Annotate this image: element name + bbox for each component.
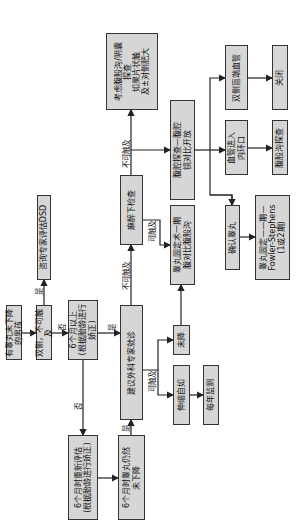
edge-label-palpable: 可触及 [146, 221, 157, 242]
node-label: 每年监测 [206, 379, 215, 411]
node-label: 6个月时重新评估 (根据胎龄进行矫正) [74, 442, 92, 512]
edge-label-palpable: 可触及 [146, 371, 157, 392]
node-retractile: 伸缩自如 [173, 365, 190, 425]
node-exam-under-anesthesia: 麻醉下检查 [120, 175, 143, 245]
node-label: 睾丸固定术一期 腹对比腹股沟 [173, 217, 191, 273]
node-label: 血管进入 内环口 [227, 132, 245, 164]
node-label: 建议外科专家就诊 [127, 331, 136, 395]
edge-label-nonpalpable: 不可触及 [120, 262, 131, 290]
node-label: 未降 [177, 332, 186, 348]
node-label: 双侧盲端血管 [232, 54, 241, 102]
node-inguinal-scrotal-exploration: 考虑腹股沟/阴囊 探查 如果片状触 及±对侧肥大 [106, 33, 158, 110]
node-bilateral-nonpalpable: 双侧，不可触及 [36, 305, 52, 360]
node-label: 伸缩自如 [177, 379, 186, 411]
node-label: 腹腔探查—腹腔 镜对比开放 [173, 122, 191, 178]
node-still-undescended: 6个月时睾丸仍然 未下降 [118, 435, 145, 520]
node-label: 双侧，不可触及 [35, 308, 53, 357]
node-annual-monitoring: 每年监测 [203, 365, 219, 425]
node-label: 麻醉下检查 [127, 190, 136, 230]
node-label: 腹股沟探查 [275, 128, 284, 168]
edge-label-yes: 是 [120, 425, 131, 432]
node-label: 6个月以上 (根据胎龄进行矫正) [69, 303, 97, 357]
node-blind-ending-vessels: 双侧盲端血管 [225, 45, 248, 110]
node-label: 睾丸固定——期— Fowler-Stephens (1或2期) [259, 205, 287, 271]
edge-label-nonpalpable: 不可触及 [120, 140, 131, 168]
node-start: 有睾丸未下降的男孩 [6, 305, 22, 360]
node-close: 关闭 [272, 45, 288, 110]
edge-label-no: 否 [72, 403, 83, 410]
node-confirm-testis: 确认睾丸 [225, 205, 240, 270]
node-orchidopexy-groin: 睾丸固定术一期 腹对比腹股沟 [170, 205, 195, 285]
node-label: 确认睾丸 [228, 222, 237, 254]
node-undescended: 未降 [173, 325, 190, 355]
node-label: 考虑腹股沟/阴囊 探查 如果片状触 及±对侧肥大 [114, 42, 151, 101]
node-dsd-consult: 咨询专家评估DSD [37, 195, 51, 280]
flowchart: 有睾丸未下降的男孩 双侧，不可触及 咨询专家评估DSD 6个月以上 (根据胎龄进… [0, 0, 299, 520]
node-label: 有睾丸未下降的男孩 [5, 308, 23, 357]
edge-label-yes: 是 [106, 324, 117, 331]
edge-label-yes: 是 [33, 288, 44, 295]
edge-label-no: 否 [56, 324, 67, 331]
node-laparoscopy: 腹腔探查—腹腔 镜对比开放 [170, 100, 195, 200]
node-label: 咨询专家评估DSD [39, 205, 48, 270]
node-refer-surgeon: 建议外科专家就诊 [120, 305, 143, 420]
node-label: 关闭 [275, 70, 284, 86]
node-vessels-internal-ring: 血管进入 内环口 [225, 120, 248, 175]
node-fowler-stephens: 睾丸固定——期— Fowler-Stephens (1或2期) [255, 195, 290, 280]
node-reassess-6-months: 6个月时重新评估 (根据胎龄进行矫正) [68, 435, 98, 520]
node-over-6-months: 6个月以上 (根据胎龄进行矫正) [68, 300, 98, 360]
node-label: 6个月时睾丸仍然 未下降 [122, 447, 140, 508]
node-groin-exploration: 腹股沟探查 [272, 120, 288, 175]
